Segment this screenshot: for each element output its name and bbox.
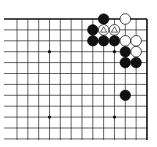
- black-stone[interactable]: [120, 57, 131, 68]
- black-stone[interactable]: [88, 36, 99, 47]
- white-stone[interactable]: [131, 46, 142, 57]
- white-stone[interactable]: [120, 36, 131, 47]
- black-stone[interactable]: [120, 90, 131, 101]
- black-stone[interactable]: [120, 46, 131, 57]
- black-stone[interactable]: [98, 36, 109, 47]
- star-point-icon: [48, 116, 51, 119]
- white-stone[interactable]: [98, 25, 109, 36]
- go-board[interactable]: [0, 0, 157, 147]
- star-point-icon: [48, 50, 51, 53]
- white-stone[interactable]: [120, 14, 131, 25]
- black-stone[interactable]: [98, 14, 109, 25]
- star-point-icon: [113, 50, 116, 53]
- white-stone[interactable]: [109, 25, 120, 36]
- black-stone[interactable]: [88, 25, 99, 36]
- star-point-icon: [113, 116, 116, 119]
- black-stone[interactable]: [131, 57, 142, 68]
- black-stone[interactable]: [109, 36, 120, 47]
- white-stone[interactable]: [131, 36, 142, 47]
